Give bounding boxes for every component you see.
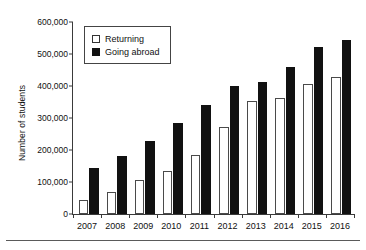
bar-returning-2013 bbox=[247, 101, 257, 214]
bar-going-abroad-2016 bbox=[342, 40, 352, 214]
footer-divider bbox=[6, 240, 360, 241]
x-tick-mark bbox=[242, 214, 243, 218]
bar-going-abroad-2015 bbox=[314, 47, 324, 214]
x-tick-mark bbox=[354, 214, 355, 218]
y-tick-mark bbox=[69, 150, 73, 151]
x-tick-mark bbox=[185, 214, 186, 218]
bar-returning-2008 bbox=[107, 192, 117, 214]
x-tick-label: 2010 bbox=[161, 221, 181, 231]
y-tick-mark bbox=[69, 118, 73, 119]
y-tick-label: 400,000 bbox=[37, 81, 73, 91]
white-square-icon bbox=[92, 35, 100, 43]
y-tick-mark bbox=[69, 86, 73, 87]
bar-returning-2009 bbox=[135, 180, 145, 214]
legend-label-going-abroad: Going abroad bbox=[105, 47, 160, 57]
x-tick-label: 2012 bbox=[218, 221, 238, 231]
bar-going-abroad-2013 bbox=[258, 82, 268, 214]
bar-returning-2016 bbox=[331, 77, 341, 214]
x-tick-label: 2015 bbox=[302, 221, 322, 231]
y-tick-label: 200,000 bbox=[37, 145, 73, 155]
x-tick-label: 2014 bbox=[274, 221, 294, 231]
x-tick-mark bbox=[214, 214, 215, 218]
y-tick-label: 500,000 bbox=[37, 49, 73, 59]
legend-label-returning: Returning bbox=[105, 34, 144, 44]
bar-going-abroad-2011 bbox=[201, 105, 211, 214]
x-tick-label: 2011 bbox=[190, 221, 209, 231]
bar-going-abroad-2008 bbox=[117, 156, 127, 214]
x-tick-mark bbox=[270, 214, 271, 218]
y-tick-mark bbox=[69, 22, 73, 23]
bar-returning-2007 bbox=[79, 200, 89, 214]
y-tick-mark bbox=[69, 54, 73, 55]
y-axis-title: Number of students bbox=[17, 43, 27, 203]
bar-going-abroad-2009 bbox=[145, 141, 155, 214]
bar-returning-2012 bbox=[219, 127, 229, 214]
bar-going-abroad-2014 bbox=[286, 67, 296, 214]
bar-returning-2011 bbox=[191, 155, 201, 214]
bar-returning-2014 bbox=[275, 98, 285, 214]
legend-item-returning: Returning bbox=[92, 32, 160, 45]
y-tick-label: 100,000 bbox=[37, 177, 73, 187]
x-tick-label: 2007 bbox=[77, 221, 97, 231]
x-tick-label: 2008 bbox=[105, 221, 125, 231]
x-tick-mark bbox=[298, 214, 299, 218]
x-tick-mark bbox=[101, 214, 102, 218]
legend-item-going-abroad: Going abroad bbox=[92, 45, 160, 58]
x-tick-mark bbox=[326, 214, 327, 218]
bar-going-abroad-2010 bbox=[173, 123, 183, 214]
x-tick-mark bbox=[129, 214, 130, 218]
y-tick-label: 600,000 bbox=[37, 17, 73, 27]
x-tick-mark bbox=[157, 214, 158, 218]
black-square-icon bbox=[92, 48, 100, 56]
bar-going-abroad-2007 bbox=[89, 168, 99, 214]
bar-chart: Number of students 0100,000200,000300,00… bbox=[0, 0, 366, 250]
bar-returning-2015 bbox=[303, 84, 313, 214]
x-tick-label: 2016 bbox=[330, 221, 350, 231]
chart-legend: Returning Going abroad bbox=[84, 26, 171, 64]
x-tick-label: 2009 bbox=[133, 221, 153, 231]
x-tick-mark bbox=[73, 214, 74, 218]
y-tick-mark bbox=[69, 182, 73, 183]
x-tick-label: 2013 bbox=[246, 221, 266, 231]
y-tick-label: 300,000 bbox=[37, 113, 73, 123]
bar-returning-2010 bbox=[163, 171, 173, 214]
bar-going-abroad-2012 bbox=[230, 86, 240, 214]
